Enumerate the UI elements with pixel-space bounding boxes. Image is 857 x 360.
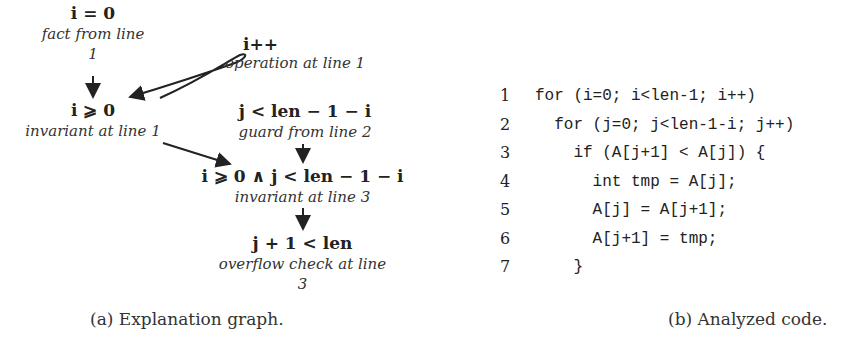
line-number: 4 — [500, 168, 535, 197]
line-text: if (A[j+1] < A[j]) { — [535, 139, 765, 168]
line-text: for (j=0; j<len-1-i; j++) — [535, 111, 794, 140]
node-label: guard from line 2 — [220, 122, 390, 142]
graph-node-overflow-check: j + 1 < len overflow check at line 3 — [205, 232, 400, 294]
graph-node-i-geq-0: i ⩾ 0 invariant at line 1 — [8, 99, 178, 141]
node-label-cont: 1 — [18, 44, 168, 64]
line-text: int tmp = A[j]; — [535, 168, 737, 197]
graph-node-invariant-line-3: i ⩾ 0 ∧ j < len − 1 − i invariant at lin… — [195, 165, 410, 207]
line-number: 2 — [500, 111, 535, 140]
graph-node-i-eq-0: i = 0 fact from line 1 — [18, 2, 168, 64]
node-formula: i ⩾ 0 ∧ j < len − 1 − i — [195, 165, 410, 187]
line-text: } — [535, 253, 583, 282]
node-label-cont: 3 — [205, 274, 400, 294]
line-text: A[j] = A[j+1]; — [535, 196, 727, 225]
node-label: overflow check at line — [205, 254, 400, 274]
code-line: 4 int tmp = A[j]; — [500, 168, 794, 197]
node-label: fact from line — [18, 24, 168, 44]
code-line: 6 A[j+1] = tmp; — [500, 225, 794, 254]
line-number: 3 — [500, 139, 535, 168]
node-label: invariant at line 3 — [195, 187, 410, 207]
code-listing: 1for (i=0; i<len-1; i++) 2 for (j=0; j<l… — [500, 82, 794, 282]
code-line: 3 if (A[j+1] < A[j]) { — [500, 139, 794, 168]
graph-node-guard: j < len − 1 − i guard from line 2 — [220, 100, 390, 142]
line-text: A[j+1] = tmp; — [535, 225, 717, 254]
code-line: 5 A[j] = A[j+1]; — [500, 196, 794, 225]
node-formula: i = 0 — [18, 2, 168, 24]
node-formula: i ⩾ 0 — [8, 99, 178, 121]
caption-a: (a) Explanation graph. — [90, 309, 284, 329]
node-label: operation at line 1 — [225, 53, 405, 73]
node-formula: j < len − 1 − i — [220, 100, 390, 122]
code-line: 2 for (j=0; j<len-1-i; j++) — [500, 111, 794, 140]
code-line: 1for (i=0; i<len-1; i++) — [500, 82, 794, 111]
code-line: 7 } — [500, 253, 794, 282]
graph-node-i-increment: i++ operation at line 1 — [225, 33, 405, 73]
caption-b: (b) Analyzed code. — [668, 309, 827, 329]
node-label: invariant at line 1 — [8, 121, 178, 141]
line-number: 5 — [500, 196, 535, 225]
line-text: for (i=0; i<len-1; i++) — [535, 82, 756, 111]
line-number: 1 — [500, 82, 535, 111]
node-formula: j + 1 < len — [205, 232, 400, 254]
line-number: 7 — [500, 253, 535, 282]
node-formula: i++ — [225, 33, 405, 55]
edge-n3-n5 — [163, 143, 230, 164]
line-number: 6 — [500, 225, 535, 254]
